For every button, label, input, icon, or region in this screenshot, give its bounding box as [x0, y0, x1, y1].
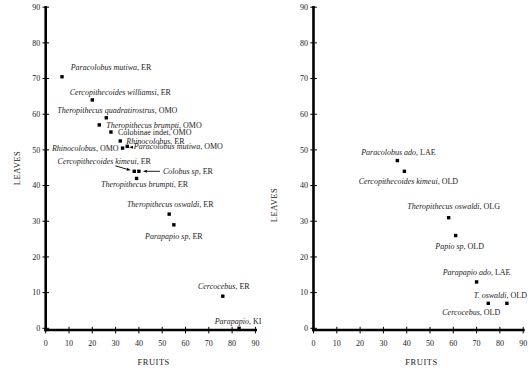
- point-label: Cercopithecoides williamsi, ER: [70, 88, 172, 97]
- point-label: Colobus sp, ER: [163, 167, 214, 176]
- data-point: [133, 170, 136, 173]
- x-tick-label: 40: [403, 339, 411, 348]
- x-tick-label: 10: [65, 339, 73, 348]
- x-tick-label: 50: [158, 339, 166, 348]
- data-point: [119, 139, 122, 142]
- point-label: Rhinocolobus, OMO: [51, 144, 119, 153]
- left-scatter-plot: LEAVES FRUITS 01020304050607080900102030…: [12, 3, 262, 367]
- point-label: Parapapio sp, ER: [144, 232, 203, 241]
- data-point: [396, 159, 399, 162]
- x-axis-label: FRUITS: [138, 357, 170, 367]
- data-point: [172, 223, 175, 226]
- y-tick-label: 70: [300, 74, 308, 83]
- data-point: [475, 280, 478, 283]
- data-point: [454, 234, 457, 237]
- y-tick-label: 50: [32, 146, 40, 155]
- point-label: Paracolobus mutiwa, ER: [70, 63, 152, 72]
- point-label: Theropithecus oswaldi, OLG: [407, 202, 500, 211]
- x-tick-label: 20: [356, 339, 364, 348]
- point-label: Paracolobus mutiwa, OMO: [133, 142, 223, 151]
- y-tick-label: 80: [300, 39, 308, 48]
- y-tick-label: 0: [304, 324, 308, 333]
- data-point: [109, 130, 112, 133]
- x-tick-label: 30: [112, 339, 120, 348]
- y-tick-label: 90: [300, 3, 308, 12]
- data-point: [121, 146, 124, 149]
- data-point: [447, 216, 450, 219]
- x-tick-label: 80: [496, 339, 504, 348]
- label-arrowhead: [143, 170, 147, 173]
- y-tick-label: 60: [300, 110, 308, 119]
- data-point: [126, 145, 129, 148]
- point-label: Paracolobus ado, LAE: [360, 148, 436, 157]
- y-tick-label: 90: [32, 3, 40, 12]
- point-label: Papio sp, OLD: [434, 242, 484, 251]
- data-point: [91, 98, 94, 101]
- y-axis-label: LEAVES: [269, 188, 279, 223]
- y-tick-label: 10: [32, 288, 40, 297]
- label-arrowhead: [126, 168, 130, 171]
- point-label: Cercocebus, OLD: [442, 308, 500, 317]
- data-point: [403, 170, 406, 173]
- x-tick-label: 80: [228, 339, 236, 348]
- y-tick-label: 20: [300, 253, 308, 262]
- point-label: T. oswaldi, OLD: [474, 291, 527, 300]
- y-tick-label: 0: [36, 324, 40, 333]
- point-label: Cercopithecoides kimeui, ER: [58, 157, 152, 166]
- y-tick-label: 20: [32, 253, 40, 262]
- label-arrowhead: [129, 146, 133, 149]
- data-point: [60, 75, 63, 78]
- y-tick-label: 70: [32, 74, 40, 83]
- data-point: [237, 327, 240, 330]
- figure-leaves-vs-fruits: LEAVES FRUITS 01020304050607080900102030…: [0, 0, 529, 373]
- data-point: [167, 212, 170, 215]
- data-point: [487, 302, 490, 305]
- y-tick-label: 50: [300, 146, 308, 155]
- x-tick-label: 10: [333, 339, 341, 348]
- x-tick-label: 0: [312, 339, 316, 348]
- y-tick-label: 60: [32, 110, 40, 119]
- data-point: [221, 294, 224, 297]
- x-tick-label: 40: [135, 339, 143, 348]
- point-label: Cercopithecoides kimeui, OLD: [359, 177, 459, 186]
- x-tick-label: 60: [182, 339, 190, 348]
- data-point: [98, 123, 101, 126]
- y-tick-label: 40: [32, 181, 40, 190]
- point-label: Colobinae indet, OMO: [118, 128, 192, 137]
- x-tick-label: 90: [519, 339, 527, 348]
- label-arrow: [115, 166, 127, 169]
- y-tick-label: 40: [300, 181, 308, 190]
- x-tick-label: 50: [426, 339, 434, 348]
- right-scatter-plot: LEAVES FRUITS 01020304050607080900102030…: [269, 3, 527, 367]
- y-axis-label: LEAVES: [12, 151, 22, 186]
- point-label: Theropithecus brumpti, ER: [101, 180, 189, 189]
- point-label: Theropithecus oswaldi, ER: [127, 200, 214, 209]
- data-point: [505, 302, 508, 305]
- x-tick-label: 70: [473, 339, 481, 348]
- y-tick-label: 80: [32, 39, 40, 48]
- point-label: Parapapio ado, LAE: [442, 268, 511, 277]
- data-point: [137, 170, 140, 173]
- point-label: Cercocebus, ER: [198, 282, 250, 291]
- y-tick-label: 10: [300, 288, 308, 297]
- data-point: [105, 116, 108, 119]
- x-tick-label: 20: [88, 339, 96, 348]
- point-label: Parapapio, KI: [214, 317, 262, 326]
- x-axis-label: FRUITS: [405, 357, 437, 367]
- x-tick-label: 70: [205, 339, 213, 348]
- y-tick-label: 30: [32, 217, 40, 226]
- x-tick-label: 60: [449, 339, 457, 348]
- x-tick-label: 90: [251, 339, 259, 348]
- y-tick-label: 30: [300, 217, 308, 226]
- scatter-figure-canvas: LEAVES FRUITS 01020304050607080900102030…: [0, 0, 529, 373]
- x-tick-label: 0: [44, 339, 48, 348]
- point-label: Theropithecus quadratirostrus, OMO: [57, 106, 177, 115]
- x-tick-label: 30: [379, 339, 387, 348]
